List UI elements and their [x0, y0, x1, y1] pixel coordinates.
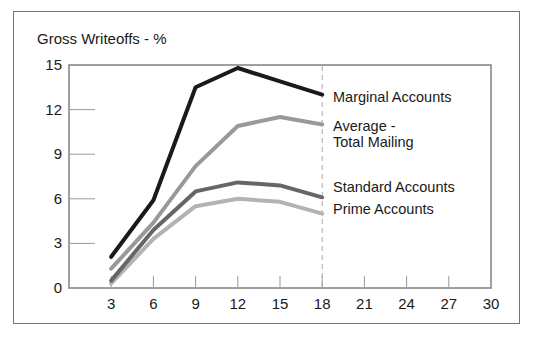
- x-tick-label-21: 21: [349, 296, 379, 312]
- chart-canvas: [0, 0, 535, 342]
- x-tick-label-6: 6: [138, 296, 168, 312]
- y-tick-label-12: 12: [26, 102, 62, 118]
- x-tick-label-24: 24: [392, 296, 422, 312]
- x-tick-label-12: 12: [223, 296, 253, 312]
- chart-figure: Gross Writeoffs - % 03691215369121518212…: [0, 0, 535, 342]
- y-tick-label-0: 0: [26, 280, 62, 296]
- series-label-average-total-mailing: Average - Total Mailing: [333, 118, 414, 150]
- y-tick-label-15: 15: [26, 57, 62, 73]
- y-tick-label-6: 6: [26, 191, 62, 207]
- series-label-standard-accounts: Standard Accounts: [333, 179, 455, 195]
- series-line-average-total-mailing: [111, 117, 322, 269]
- x-tick-label-15: 15: [265, 296, 295, 312]
- x-tick-label-3: 3: [96, 296, 126, 312]
- x-tick-label-30: 30: [476, 296, 506, 312]
- x-tick-label-27: 27: [434, 296, 464, 312]
- x-tick-label-18: 18: [307, 296, 337, 312]
- series-label-marginal-accounts: Marginal Accounts: [333, 89, 451, 105]
- y-tick-label-9: 9: [26, 146, 62, 162]
- series-label-prime-accounts: Prime Accounts: [333, 201, 434, 217]
- y-tick-label-3: 3: [26, 235, 62, 251]
- series-line-marginal-accounts: [111, 68, 322, 257]
- x-tick-label-9: 9: [181, 296, 211, 312]
